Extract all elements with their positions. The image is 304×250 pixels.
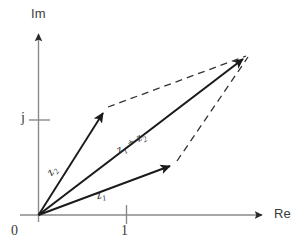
imaginary-tick-label-j: j: [21, 110, 25, 126]
real-tick-label-1: 1: [121, 223, 128, 239]
origin-label: 0: [11, 223, 18, 239]
vector-diagram-canvas: [0, 0, 304, 250]
imaginary-axis-label: Im: [31, 6, 46, 21]
complex-plane-figure: Im Re 0 1 j z2 z1 z1 + z2: [0, 0, 304, 250]
dashed-side-from-z2: [108, 56, 246, 107]
dashed-side-from-z1: [177, 57, 248, 161]
real-axis-label: Re: [274, 206, 291, 221]
